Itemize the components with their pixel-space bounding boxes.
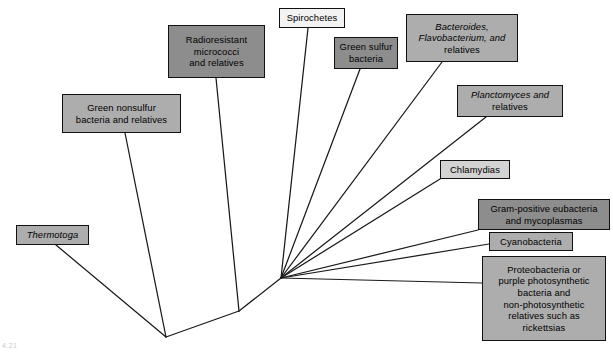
taxon-box-radioresistant-micrococci: Radioresistantmicrococciand relatives: [168, 25, 265, 78]
taxon-box-bacteroides-flavobacterium: Bacteroides,Flavobacterium, andrelatives: [406, 14, 518, 62]
chlamydias-branch: [281, 179, 440, 278]
taxon-box-planctomyces: Planctomyces andrelatives: [457, 85, 563, 117]
taxon-label-line: bacteria and relatives: [76, 114, 167, 125]
cyanobacteria-branch: [281, 244, 489, 278]
proteobacteria-branch: [281, 278, 482, 283]
taxon-label-line: Green sulfur: [340, 41, 393, 52]
root-to-node-radioresistant: [166, 311, 239, 337]
green-nonsulfur-branch: [125, 133, 166, 337]
taxon-label-line: Chlamydias: [450, 164, 500, 175]
taxon-box-green-nonsulfur: Green nonsulfurbacteria and relatives: [62, 94, 181, 133]
taxon-label-spirochetes: Spirochetes: [283, 12, 341, 24]
taxon-box-chlamydias: Chlamydias: [440, 160, 510, 179]
taxon-label-line: relatives: [492, 101, 528, 112]
taxon-box-gram-positive-eubacteria: Gram-positive eubacteriaand mycoplasmas: [478, 199, 610, 230]
spirochetes-branch: [281, 28, 308, 278]
taxon-box-spirochetes: Spirochetes: [279, 8, 345, 28]
taxon-label-line: non-photosynthetic: [503, 299, 584, 310]
taxon-label-line: Thermotoga: [27, 229, 79, 240]
taxon-box-thermotoga: Thermotoga: [16, 225, 89, 245]
taxon-label-green-nonsulfur: Green nonsulfurbacteria and relatives: [66, 102, 177, 125]
node-to-fan: [239, 278, 281, 311]
taxon-label-green-sulfur: Green sulfurbacteria: [338, 41, 394, 64]
taxon-label-line: relatives such as: [508, 310, 580, 321]
taxon-label-line: purple photosynthetic: [498, 275, 589, 286]
phylogenetic-tree-figure: Green nonsulfurbacteria and relativesRad…: [0, 0, 613, 357]
taxon-label-bacteroides-flavobacterium: Bacteroides,Flavobacterium, andrelatives: [410, 21, 514, 56]
taxon-label-line: Proteobacteria or: [507, 264, 581, 275]
taxon-box-proteobacteria: Proteobacteria orpurple photosyntheticba…: [482, 256, 606, 341]
taxon-label-line: Green nonsulfur: [87, 102, 156, 113]
taxon-label-chlamydias: Chlamydias: [444, 164, 506, 176]
taxon-label-proteobacteria: Proteobacteria orpurple photosyntheticba…: [486, 264, 602, 334]
taxon-label-line: relatives: [444, 44, 480, 55]
taxon-box-green-sulfur: Green sulfurbacteria: [334, 37, 398, 69]
taxon-label-line: and relatives: [189, 57, 243, 68]
taxon-label-cyanobacteria: Cyanobacteria: [493, 236, 569, 248]
taxon-label-line: Spirochetes: [287, 12, 338, 23]
thermotoga-branch: [56, 245, 166, 337]
taxon-label-line: bacteria: [349, 53, 383, 64]
taxon-label-line: bacteria and: [518, 287, 571, 298]
radioresistant-branch: [216, 78, 239, 311]
figure-corner-mark: 4.21: [2, 342, 17, 349]
taxon-label-gram-positive-eubacteria: Gram-positive eubacteriaand mycoplasmas: [482, 203, 606, 226]
taxon-box-cyanobacteria: Cyanobacteria: [489, 232, 573, 251]
taxon-label-line: rickettsias: [523, 322, 566, 333]
taxon-label-line: Gram-positive eubacteria: [490, 203, 597, 214]
taxon-label-line: Bacteroides,: [435, 21, 488, 32]
taxon-label-line: Flavobacterium, and: [419, 32, 506, 43]
taxon-label-line: Planctomyces and: [471, 89, 549, 100]
taxon-label-thermotoga: Thermotoga: [20, 229, 85, 241]
taxon-label-radioresistant-micrococci: Radioresistantmicrococciand relatives: [172, 34, 261, 69]
taxon-label-planctomyces: Planctomyces andrelatives: [461, 89, 559, 112]
taxon-label-line: Cyanobacteria: [500, 236, 562, 247]
taxon-label-line: Radioresistant: [186, 34, 247, 45]
taxon-label-line: and mycoplasmas: [505, 215, 582, 226]
taxon-label-line: micrococci: [194, 46, 239, 57]
